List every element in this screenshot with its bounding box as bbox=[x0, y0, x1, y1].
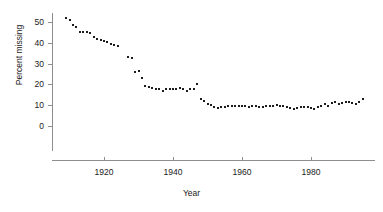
data-point bbox=[265, 105, 267, 107]
data-point bbox=[110, 43, 112, 45]
data-point bbox=[179, 87, 181, 89]
data-point bbox=[307, 106, 309, 108]
data-point bbox=[262, 106, 264, 108]
data-point bbox=[355, 103, 357, 105]
data-point bbox=[75, 26, 77, 28]
data-point bbox=[334, 101, 336, 103]
data-point bbox=[100, 39, 102, 41]
data-point bbox=[320, 105, 322, 107]
data-point bbox=[72, 24, 74, 26]
data-point bbox=[210, 104, 212, 106]
data-point bbox=[169, 88, 171, 90]
data-point bbox=[127, 56, 129, 58]
data-point bbox=[362, 98, 364, 100]
data-point bbox=[293, 108, 295, 110]
data-point bbox=[182, 88, 184, 90]
data-point bbox=[69, 19, 71, 21]
data-point bbox=[358, 101, 360, 103]
data-point bbox=[227, 105, 229, 107]
data-point bbox=[331, 102, 333, 104]
data-point bbox=[175, 88, 177, 90]
data-point bbox=[134, 71, 136, 73]
data-point bbox=[279, 105, 281, 107]
data-point bbox=[258, 106, 260, 108]
data-point bbox=[148, 86, 150, 88]
data-point bbox=[186, 90, 188, 92]
data-point bbox=[241, 105, 243, 107]
data-point bbox=[251, 105, 253, 107]
data-point bbox=[172, 88, 174, 90]
data-point bbox=[313, 108, 315, 110]
data-point bbox=[207, 103, 209, 105]
data-point bbox=[151, 87, 153, 89]
data-point bbox=[272, 105, 274, 107]
data-point bbox=[220, 106, 222, 108]
data-point bbox=[244, 105, 246, 107]
data-point bbox=[106, 41, 108, 43]
data-point bbox=[213, 106, 215, 108]
data-point bbox=[93, 36, 95, 38]
data-point bbox=[351, 102, 353, 104]
data-point bbox=[238, 105, 240, 107]
data-point bbox=[117, 45, 119, 47]
data-point bbox=[248, 106, 250, 108]
data-point bbox=[217, 107, 219, 109]
data-point bbox=[131, 57, 133, 59]
data-point bbox=[224, 106, 226, 108]
data-point bbox=[162, 90, 164, 92]
data-point bbox=[341, 102, 343, 104]
data-point bbox=[317, 106, 319, 108]
data-point bbox=[196, 83, 198, 85]
data-point bbox=[286, 106, 288, 108]
data-point bbox=[138, 70, 140, 72]
data-point bbox=[310, 107, 312, 109]
data-point bbox=[113, 44, 115, 46]
data-point bbox=[296, 107, 298, 109]
data-point bbox=[79, 31, 81, 33]
data-point bbox=[103, 40, 105, 42]
data-point bbox=[155, 88, 157, 90]
data-point bbox=[276, 104, 278, 106]
data-point bbox=[86, 31, 88, 33]
data-point bbox=[203, 100, 205, 102]
data-point bbox=[141, 77, 143, 79]
data-point bbox=[165, 88, 167, 90]
data-point bbox=[96, 38, 98, 40]
data-point bbox=[200, 98, 202, 100]
data-point bbox=[300, 106, 302, 108]
data-point bbox=[189, 88, 191, 90]
data-point bbox=[82, 31, 84, 33]
data-point bbox=[303, 106, 305, 108]
data-point bbox=[65, 17, 67, 19]
data-point bbox=[269, 105, 271, 107]
data-point bbox=[231, 105, 233, 107]
data-point bbox=[327, 105, 329, 107]
data-point bbox=[345, 101, 347, 103]
data-point-layer bbox=[0, 0, 383, 212]
scatter-plot-figure: 01020304050 1920194019601980 Percent mis… bbox=[0, 0, 383, 212]
data-point bbox=[144, 85, 146, 87]
data-point bbox=[158, 88, 160, 90]
data-point bbox=[193, 88, 195, 90]
data-point bbox=[255, 105, 257, 107]
data-point bbox=[282, 105, 284, 107]
data-point bbox=[348, 101, 350, 103]
chart-screenshot: 01020304050 1920194019601980 Percent mis… bbox=[0, 0, 383, 212]
data-point bbox=[338, 103, 340, 105]
data-point bbox=[289, 107, 291, 109]
data-point bbox=[89, 32, 91, 34]
data-point bbox=[234, 105, 236, 107]
data-point bbox=[324, 103, 326, 105]
